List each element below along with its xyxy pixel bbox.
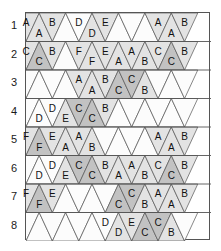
triangle-grid-svg [26, 13, 211, 241]
row-number: 6 [6, 163, 22, 174]
triangular-grid-figure: 12345678 AABDDEAABCCBFFEAABCCBAABCCBDDEC… [0, 0, 221, 251]
row-number: 7 [6, 191, 22, 202]
row-number: 8 [6, 220, 22, 231]
row-number: 1 [6, 20, 22, 31]
row-number: 5 [6, 134, 22, 145]
triangle-grid: AABDDEAABCCBFFEAABCCBAABCCBDDECCBFFEAABA… [25, 12, 210, 240]
row-number: 2 [6, 49, 22, 60]
row-number: 4 [6, 106, 22, 117]
row-number: 3 [6, 77, 22, 88]
